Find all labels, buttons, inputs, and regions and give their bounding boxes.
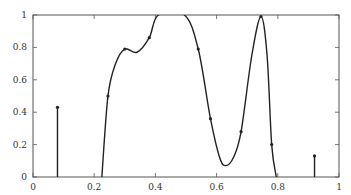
stem-marker xyxy=(56,106,59,109)
plot-frame xyxy=(33,15,339,177)
x-tick-label: 0.6 xyxy=(209,182,224,192)
data-point-marker xyxy=(106,94,109,97)
x-tick-label: 0.8 xyxy=(271,182,286,192)
y-tick-label: 0 xyxy=(21,172,27,182)
data-point-marker xyxy=(197,47,200,50)
line-chart: 00.20.40.60.8100.20.40.60.81 xyxy=(0,0,351,195)
data-point-marker xyxy=(259,15,262,18)
data-point-marker xyxy=(209,117,212,120)
y-tick-label: 0.4 xyxy=(13,107,28,117)
y-tick-label: 0.2 xyxy=(13,140,27,150)
curve-line xyxy=(102,11,276,177)
x-tick-label: 0 xyxy=(30,182,36,192)
data-point-marker xyxy=(239,130,242,133)
data-point-marker xyxy=(148,36,151,39)
y-tick-label: 0.6 xyxy=(13,75,28,85)
y-tick-label: 1 xyxy=(21,10,27,20)
data-point-marker xyxy=(123,47,126,50)
x-tick-label: 1 xyxy=(336,182,342,192)
data-point-marker xyxy=(270,143,273,146)
y-tick-label: 0.8 xyxy=(13,42,28,52)
stem-marker xyxy=(313,154,316,157)
x-tick-label: 0.2 xyxy=(87,182,101,192)
x-tick-label: 0.4 xyxy=(148,182,163,192)
